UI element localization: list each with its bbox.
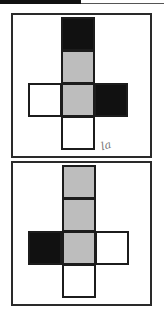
net1-square-center-gray bbox=[61, 83, 95, 117]
header-rule bbox=[81, 3, 164, 4]
net2-square-second-gray bbox=[62, 198, 96, 232]
net2-square-left-black bbox=[28, 231, 62, 265]
net1-square-second-gray bbox=[61, 50, 95, 84]
net1-square-right-black bbox=[94, 83, 128, 117]
net1-square-left-white bbox=[28, 83, 62, 117]
header-bar bbox=[0, 0, 81, 4]
net2-square-top-gray bbox=[62, 165, 96, 199]
net2-square-center-gray bbox=[62, 231, 96, 265]
net2-square-bottom-white bbox=[62, 264, 96, 298]
net2-square-right-white bbox=[95, 231, 129, 265]
net1-square-top-black bbox=[61, 17, 95, 51]
net1-square-bottom-white bbox=[61, 116, 95, 150]
